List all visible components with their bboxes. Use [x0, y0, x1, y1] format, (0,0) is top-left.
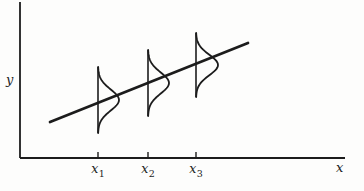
normal-curve-x3 [196, 33, 218, 97]
x-tick-label-1: x1 [91, 161, 105, 179]
x-axis-tick-labels: x1x2x3 [91, 161, 203, 179]
regression-diagram-canvas: y x x1x2x3 [0, 0, 364, 191]
regression-model-figure: y x x1x2x3 [0, 0, 364, 191]
bell-outline [196, 33, 218, 97]
x-axis-label: x [336, 160, 344, 175]
normal-distribution-curves [98, 33, 218, 133]
x-tick-label-2: x2 [141, 161, 155, 179]
y-axis-label: y [5, 72, 14, 87]
x-tick-label-3: x3 [189, 161, 203, 179]
